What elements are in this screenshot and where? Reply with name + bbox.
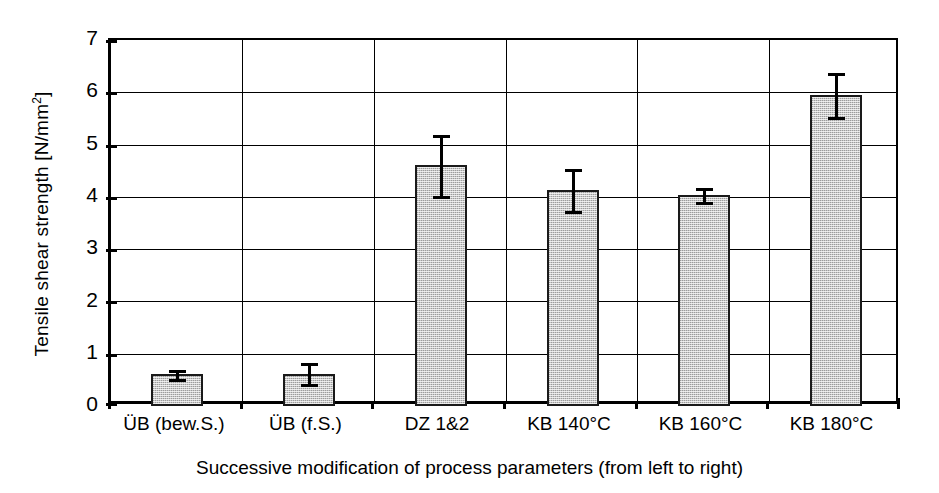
x-category-label-3: KB 140°C	[503, 413, 635, 435]
y-tick-mark-1	[106, 354, 117, 357]
gridline-2	[111, 301, 896, 302]
x-category-label-5: KB 180°C	[766, 413, 897, 435]
error-cap-lower-2	[433, 196, 450, 199]
error-cap-lower-5	[828, 117, 845, 120]
y-axis-title-superscript: 2	[30, 97, 44, 104]
y-tick-label-7: 7	[64, 27, 98, 48]
error-stem-1	[308, 363, 311, 384]
y-tick-mark-3	[106, 249, 117, 252]
bar-chart-figure: Tensile shear strength [N/mm2] 7 6 5 4 3…	[0, 0, 939, 493]
y-tick-mark-6	[106, 92, 117, 95]
error-cap-lower-3	[565, 211, 582, 214]
y-tick-mark-5	[106, 145, 117, 148]
y-tick-label-3: 3	[64, 236, 98, 257]
y-axis-title: Tensile shear strength [N/mm2]	[31, 34, 53, 414]
error-bar-0	[151, 370, 203, 379]
y-tick-label-1: 1	[64, 341, 98, 362]
category-separator-2	[374, 40, 375, 401]
error-bar-1	[283, 363, 335, 384]
category-separator-4	[637, 40, 638, 401]
y-tick-label-0: 0	[64, 393, 98, 414]
error-stem-0	[176, 370, 179, 379]
x-axis-title: Successive modification of process param…	[0, 457, 939, 479]
error-stem-3	[572, 169, 575, 211]
y-tick-label-6: 6	[64, 79, 98, 100]
error-bar-2	[415, 135, 467, 196]
error-cap-lower-1	[301, 384, 318, 387]
y-tick-mark-7	[106, 40, 117, 43]
gridline-6	[111, 92, 896, 93]
x-category-label-4: KB 160°C	[635, 413, 766, 435]
x-category-label-0: ÜB (bew.S.)	[108, 413, 240, 435]
error-bar-5	[810, 73, 862, 117]
bar-5	[810, 95, 862, 406]
category-separator-3	[506, 40, 507, 401]
y-tick-label-5: 5	[64, 132, 98, 153]
y-axis-title-tail: ]	[31, 91, 52, 96]
category-separator-5	[769, 40, 770, 401]
error-stem-2	[440, 135, 443, 196]
error-bar-4	[678, 188, 730, 202]
bar-2	[415, 165, 467, 406]
error-cap-lower-4	[696, 202, 713, 205]
x-category-label-2: DZ 1&2	[371, 413, 503, 435]
y-tick-mark-0	[106, 403, 117, 406]
bar-3	[547, 190, 599, 406]
category-separator-1	[242, 40, 243, 401]
gridline-5	[111, 145, 896, 146]
plot-area	[108, 38, 898, 404]
gridline-4	[111, 197, 896, 198]
x-category-label-1: ÜB (f.S.)	[240, 413, 371, 435]
y-tick-mark-4	[106, 197, 117, 200]
gridline-1	[111, 354, 896, 355]
y-axis-title-base: Tensile shear strength [N/mm	[31, 104, 52, 357]
error-stem-4	[703, 188, 706, 202]
y-tick-label-2: 2	[64, 289, 98, 310]
error-stem-5	[835, 73, 838, 117]
error-cap-lower-0	[169, 379, 186, 382]
y-tick-label-4: 4	[64, 184, 98, 205]
error-bar-3	[547, 169, 599, 211]
bar-4	[678, 195, 730, 406]
gridline-3	[111, 249, 896, 250]
y-tick-mark-2	[106, 301, 117, 304]
